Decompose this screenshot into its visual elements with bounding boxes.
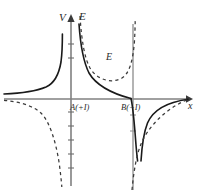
v-curve-group bbox=[4, 24, 188, 161]
plot-canvas bbox=[0, 0, 201, 194]
point-label-a: A(+I) bbox=[70, 103, 89, 112]
v-axis-label: V bbox=[59, 12, 66, 23]
x-axis-group bbox=[4, 95, 193, 103]
figure-container: V E E x A(+I) B(−I) bbox=[0, 0, 201, 194]
point-label-b: B(−I) bbox=[121, 103, 140, 112]
e-curve-label: E bbox=[106, 52, 112, 62]
v-curve-branch-left bbox=[4, 34, 62, 94]
v-axis-group bbox=[67, 14, 74, 186]
x-axis-label: x bbox=[188, 101, 192, 111]
e-curve-branch-left-lower bbox=[4, 100, 62, 187]
e-curve-group bbox=[4, 16, 188, 190]
v-axis-arrowhead bbox=[67, 14, 74, 22]
e-axis-label: E bbox=[79, 11, 86, 22]
e-curve-branch-right-lower bbox=[132, 99, 188, 190]
v-curve-branch-right bbox=[141, 99, 188, 161]
